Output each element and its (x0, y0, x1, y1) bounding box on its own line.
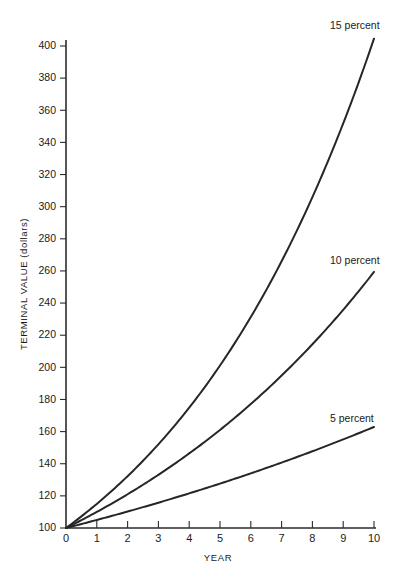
series-label: 15 percent (330, 19, 380, 31)
curve-5-percent (66, 427, 374, 528)
terminal-value-chart: 1001201401601802002202402602803003203403… (0, 0, 393, 585)
x-axis-ticks: 012345678910 (63, 521, 380, 544)
x-tick-label: 1 (94, 532, 100, 544)
x-tick-label: 0 (63, 532, 69, 544)
y-tick-label: 280 (38, 232, 56, 244)
y-axis-ticks: 1001201401601802002202402602803003203403… (38, 39, 66, 533)
y-tick-label: 380 (38, 71, 56, 83)
series-label: 5 percent (330, 412, 374, 424)
y-tick-label: 180 (38, 393, 56, 405)
x-tick-label: 10 (368, 532, 380, 544)
y-tick-label: 240 (38, 296, 56, 308)
x-tick-label: 3 (155, 532, 161, 544)
series-label: 10 percent (330, 254, 380, 266)
y-tick-label: 220 (38, 328, 56, 340)
y-tick-label: 320 (38, 168, 56, 180)
x-tick-label: 5 (217, 532, 223, 544)
y-tick-label: 120 (38, 489, 56, 501)
curve-15-percent (66, 39, 374, 528)
x-tick-label: 2 (125, 532, 131, 544)
y-axis-title: TERMINAL VALUE (dollars) (18, 218, 29, 350)
series-labels: 5 percent10 percent15 percent (330, 19, 380, 423)
x-tick-label: 6 (248, 532, 254, 544)
y-tick-label: 140 (38, 457, 56, 469)
x-tick-label: 8 (309, 532, 315, 544)
y-tick-label: 100 (38, 521, 56, 533)
y-tick-label: 300 (38, 200, 56, 212)
y-tick-label: 160 (38, 425, 56, 437)
x-tick-label: 4 (186, 532, 192, 544)
y-tick-label: 200 (38, 361, 56, 373)
x-tick-label: 7 (279, 532, 285, 544)
data-curves (66, 39, 374, 528)
x-axis-title: YEAR (204, 552, 232, 563)
y-tick-label: 400 (38, 39, 56, 51)
x-tick-label: 9 (340, 532, 346, 544)
y-tick-label: 340 (38, 136, 56, 148)
y-tick-label: 360 (38, 104, 56, 116)
y-tick-label: 260 (38, 264, 56, 276)
chart-canvas: 1001201401601802002202402602803003203403… (0, 0, 393, 585)
